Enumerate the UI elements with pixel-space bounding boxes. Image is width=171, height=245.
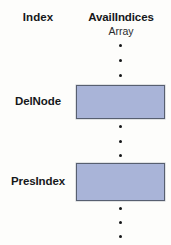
ellipsis-dot: [119, 125, 122, 128]
top-ellipsis: [112, 44, 129, 77]
ellipsis-dot: [119, 140, 122, 143]
array-cell-presindex: [76, 163, 165, 201]
availindices-column-header: AvailIndices: [76, 11, 166, 23]
ellipsis-dot: [119, 221, 122, 224]
ellipsis-dot: [119, 44, 122, 47]
ellipsis-dot: [119, 207, 122, 210]
array-column-subheader: Array: [76, 25, 166, 37]
ellipsis-dot: [119, 154, 122, 157]
row-label-presindex: PresIndex: [0, 175, 76, 187]
ellipsis-dot: [119, 235, 122, 238]
bottom-ellipsis: [112, 207, 129, 238]
middle-ellipsis: [112, 125, 129, 157]
array-cell-delnode: [76, 85, 165, 119]
row-label-delnode: DelNode: [0, 95, 76, 107]
availindices-array-diagram: Index AvailIndices Array DelNode PresInd…: [0, 0, 171, 245]
ellipsis-dot: [119, 59, 122, 62]
ellipsis-dot: [119, 74, 122, 77]
index-column-header: Index: [0, 11, 76, 23]
